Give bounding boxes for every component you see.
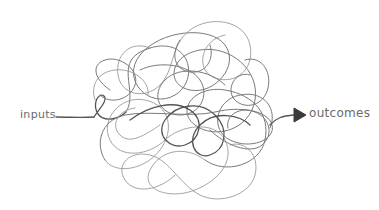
scribble-loop (126, 33, 266, 167)
diagram-canvas: inputs outcomes (0, 0, 379, 210)
output-line (270, 115, 294, 125)
inputs-label: inputs (20, 108, 56, 121)
tangled-process-scribble (0, 0, 379, 210)
arrow-head-icon (294, 108, 306, 122)
scribble-loop (130, 105, 250, 156)
scribble-loop (100, 94, 272, 160)
outcomes-label: outcomes (309, 106, 370, 120)
